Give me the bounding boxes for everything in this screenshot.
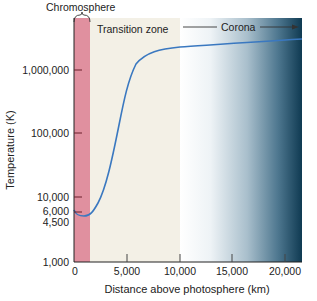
y-tick-label: 100,000 <box>31 127 69 139</box>
x-tick-label: 0 <box>72 265 78 277</box>
corona-label: Corona <box>221 21 256 33</box>
transition-zone-region <box>90 18 180 262</box>
transition-zone-label: Transition zone <box>97 23 169 35</box>
y-axis-title: Temperature (K) <box>4 110 16 189</box>
x-tick-label: 10,000 <box>164 265 196 277</box>
corona-region <box>180 18 302 262</box>
y-tick-label: 4,500 <box>43 216 69 228</box>
y-tick-label: 1,000 <box>43 256 69 268</box>
x-tick-label: 20,000 <box>269 265 301 277</box>
x-tick-label: 15,000 <box>216 265 248 277</box>
y-tick-label: 1,000,000 <box>22 64 69 76</box>
temperature-chart: Chromosphere Transition zone Corona 1,00… <box>0 0 317 301</box>
y-tick-label: 10,000 <box>37 191 69 203</box>
x-axis-title: Distance above photosphere (km) <box>104 283 269 295</box>
chromosphere-region <box>74 18 90 262</box>
x-tick-label: 5,000 <box>114 265 140 277</box>
chromosphere-label: Chromosphere <box>46 1 116 13</box>
